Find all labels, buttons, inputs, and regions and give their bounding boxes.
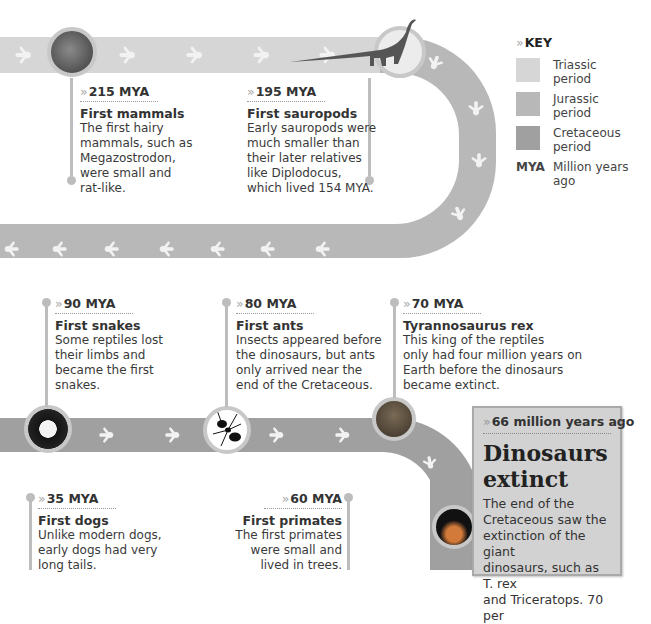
callout-body: The end of theCretaceous saw theextincti… (483, 496, 611, 624)
event-first-ants: »80 MYA First ants Insects appeared befo… (236, 296, 386, 393)
cretaceous-swatch (516, 126, 540, 150)
stem-70 (393, 303, 396, 398)
mammal-photo (47, 27, 97, 77)
dotted-divider (38, 508, 116, 509)
event-description: The first primateswere small andlived in… (222, 528, 342, 573)
legend-item-cretaceous: Cretaceousperiod (516, 126, 628, 154)
event-description: Some reptiles losttheir limbs andbecame … (55, 333, 195, 393)
event-title: First mammals (80, 106, 220, 121)
event-first-mammals: »215 MYA First mammals The first hairyma… (80, 84, 220, 196)
stem-90 (45, 303, 48, 407)
event-first-dogs: »35 MYA First dogs Unlike modern dogs,ea… (38, 491, 188, 573)
trex-photo (372, 397, 416, 441)
dotted-divider (483, 433, 611, 434)
jurassic-swatch (516, 92, 540, 116)
stem-80 (225, 303, 228, 407)
legend-item-triassic: Triassicperiod (516, 58, 628, 86)
stem-60 (347, 498, 350, 570)
event-date: »90 MYA (55, 296, 195, 311)
dotted-divider (403, 313, 481, 314)
legend-title: »KEY (516, 36, 628, 50)
stem-35 (29, 498, 32, 570)
legend: »KEY Triassicperiod Jurassicperiod Creta… (516, 36, 628, 194)
event-title: Tyrannosaurus rex (403, 318, 603, 333)
callout-date: »66 million years ago (483, 414, 611, 429)
ant-photo (203, 406, 251, 454)
dotted-divider (55, 313, 133, 314)
extinction-callout: »66 million years ago Dinosaursextinct T… (472, 406, 622, 576)
legend-item-jurassic: Jurassicperiod (516, 92, 628, 120)
asteroid-photo (432, 505, 476, 549)
event-date: »70 MYA (403, 296, 603, 311)
event-title: First sauropods (247, 106, 387, 121)
event-description: Insects appeared beforethe dinosaurs, bu… (236, 333, 386, 393)
callout-heading: Dinosaursextinct (483, 440, 611, 492)
event-first-primates: »60 MYA First primates The first primate… (222, 491, 342, 573)
event-description: Early sauropods weremuch smaller thanthe… (247, 121, 387, 196)
dotted-divider (264, 508, 342, 509)
stem-215 (70, 78, 73, 176)
sauropod-icon (290, 14, 420, 70)
knob-215 (67, 176, 76, 185)
mya-abbreviation: MYA (516, 160, 553, 174)
snake-photo (24, 405, 72, 453)
event-description: The first hairymammals, such asMegazostr… (80, 121, 220, 196)
event-date: »215 MYA (80, 84, 220, 99)
event-date: »80 MYA (236, 296, 386, 311)
dotted-divider (236, 313, 314, 314)
event-first-sauropods: »195 MYA First sauropods Early sauropods… (247, 84, 387, 196)
event-first-snakes: »90 MYA First snakes Some reptiles lostt… (55, 296, 195, 393)
event-date: »195 MYA (247, 84, 387, 99)
event-title: First ants (236, 318, 386, 333)
event-title: First primates (222, 513, 342, 528)
event-tyrannosaurus-rex: »70 MYA Tyrannosaurus rex This king of t… (403, 296, 603, 393)
ant-icon (207, 410, 247, 450)
legend-item-mya: MYA Million yearsago (516, 160, 628, 188)
event-title: First dogs (38, 513, 188, 528)
dotted-divider (247, 101, 325, 102)
event-description: This king of the reptilesonly had four m… (403, 333, 603, 393)
event-title: First snakes (55, 318, 195, 333)
triassic-swatch (516, 58, 540, 82)
event-date: »35 MYA (38, 491, 188, 506)
event-date: »60 MYA (222, 491, 342, 506)
event-description: Unlike modern dogs,early dogs had verylo… (38, 528, 188, 573)
dotted-divider (80, 101, 158, 102)
